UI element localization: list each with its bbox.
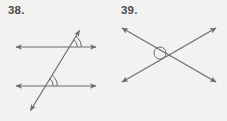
intersection-circle [154, 47, 166, 59]
worksheet-page: 38. Two parallel lines cut by a transver… [0, 0, 227, 121]
problem-39-figure [113, 0, 227, 121]
problem-38: 38. Two parallel lines cut by a transver… [0, 0, 113, 121]
transversal-line [31, 31, 80, 111]
problem-39: 39. Two intersecting lines forming an X,… [113, 0, 227, 121]
problem-38-figure [0, 0, 113, 121]
